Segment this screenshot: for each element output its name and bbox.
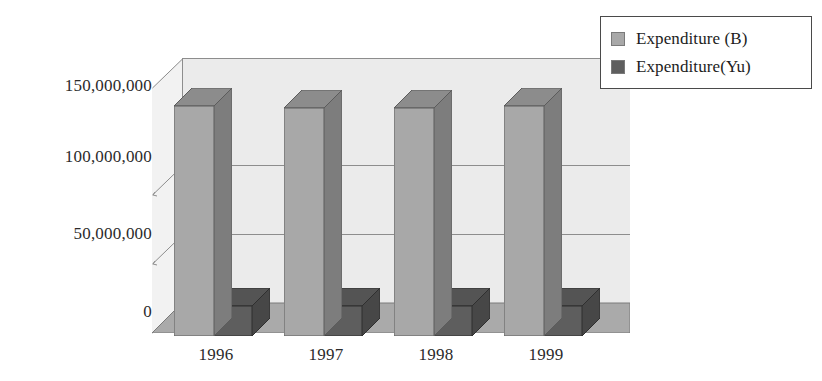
legend-swatch-expenditure-b-icon bbox=[611, 32, 625, 46]
bar-3d-shape bbox=[174, 88, 232, 336]
legend-label-expenditure-yu: Expenditure(Yu) bbox=[636, 57, 751, 77]
legend-swatch-expenditure-yu-icon bbox=[611, 60, 625, 74]
bar-chart-figure: 150,000,000 100,000,000 50,000,000 0 bbox=[0, 0, 822, 381]
y-axis-tick-100000000: 100,000,000 bbox=[65, 147, 152, 167]
plot-area bbox=[152, 58, 630, 333]
bar-1996-expenditure-b bbox=[174, 88, 212, 318]
chart-legend: Expenditure (B) Expenditure(Yu) bbox=[600, 16, 812, 89]
x-axis-tick-1999: 1999 bbox=[506, 345, 586, 365]
legend-item-expenditure-yu: Expenditure(Yu) bbox=[611, 57, 801, 77]
legend-label-expenditure-b: Expenditure (B) bbox=[636, 29, 748, 49]
bar-3d-shape bbox=[394, 90, 452, 336]
x-axis-tick-1997: 1997 bbox=[286, 345, 366, 365]
bar-1998-expenditure-b bbox=[394, 90, 432, 318]
bar-3d-shape bbox=[284, 90, 342, 336]
y-axis-tick-150000000: 150,000,000 bbox=[65, 76, 152, 96]
x-axis-tick-1996: 1996 bbox=[176, 345, 256, 365]
x-axis-tick-1998: 1998 bbox=[396, 345, 476, 365]
y-axis-tick-0: 0 bbox=[143, 302, 152, 322]
y-axis-labels: 150,000,000 100,000,000 50,000,000 0 bbox=[10, 0, 152, 381]
y-axis-tick-50000000: 50,000,000 bbox=[74, 224, 153, 244]
bar-1997-expenditure-b bbox=[284, 90, 322, 318]
bar-3d-shape bbox=[504, 88, 562, 336]
bar-1999-expenditure-b bbox=[504, 88, 542, 318]
legend-item-expenditure-b: Expenditure (B) bbox=[611, 29, 801, 49]
